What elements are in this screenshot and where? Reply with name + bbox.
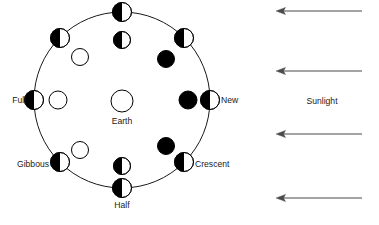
label-gibbous: Gibbous xyxy=(17,159,49,169)
orbit-moon-moon-right-new xyxy=(201,91,220,110)
orbit-moon-moon-upper-left xyxy=(51,29,70,48)
inner-moon-view-left xyxy=(49,91,67,109)
diagram-canvas: FullNewGibbousCrescentHalfEarthSunlight xyxy=(0,0,379,225)
orbit-moon-moon-top xyxy=(113,3,132,22)
earth-circle xyxy=(111,90,133,112)
inner-moon-view-lower-right xyxy=(158,138,175,155)
moon-phases-diagram: FullNewGibbousCrescentHalfEarthSunlight xyxy=(0,0,379,225)
inner-moon-view-lower-left xyxy=(72,142,89,159)
label-new: New xyxy=(221,95,239,105)
inner-moon-view-bottom xyxy=(114,158,131,175)
label-half: Half xyxy=(114,200,130,210)
inner-moon-view-upper-right xyxy=(158,51,175,68)
sunlight-arrow-1 xyxy=(276,7,362,14)
sunlight-arrow-4 xyxy=(276,194,362,201)
inner-moon-view-top xyxy=(114,32,131,49)
label-crescent: Crescent xyxy=(195,159,230,169)
sunlight-label: Sunlight xyxy=(306,96,338,106)
label-earth: Earth xyxy=(112,116,133,126)
label-full: Full xyxy=(12,95,26,105)
sunlight-arrow-2 xyxy=(276,67,362,74)
orbit-moon-moon-upper-right xyxy=(175,29,194,48)
orbit-moon-moon-lower-right xyxy=(175,153,194,172)
inner-moon-view-upper-left xyxy=(72,49,89,66)
orbit-moon-moon-left-full xyxy=(25,91,44,110)
orbit-moon-moon-bottom xyxy=(113,179,132,198)
inner-moon-view-right xyxy=(179,91,197,109)
orbit-moon-moon-lower-left xyxy=(51,153,70,172)
sunlight-arrow-3 xyxy=(276,130,362,137)
